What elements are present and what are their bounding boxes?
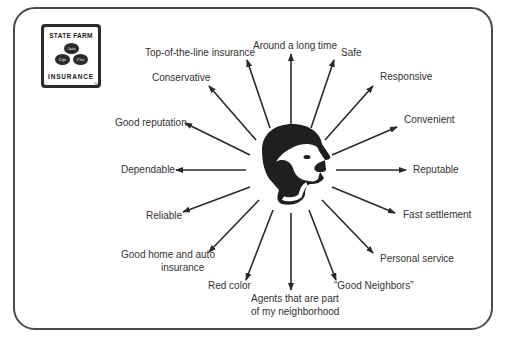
label-agents-neighborhood-line2: of my neighborhood: [251, 306, 339, 318]
label-reliable: Reliable: [146, 210, 182, 222]
label-responsive: Responsive: [380, 71, 432, 83]
label-dependable: Dependable: [121, 164, 175, 176]
arrow-convenient: [332, 127, 397, 155]
label-good-home-auto-line1: Good home and auto: [121, 249, 215, 261]
label-good-reputation: Good reputation: [115, 117, 187, 129]
arrow-red-color: [246, 210, 273, 280]
arrow-good-neighbors: [309, 210, 336, 280]
arrow-fast-settlement: [332, 187, 395, 213]
label-reputable: Reputable: [413, 164, 459, 176]
arrow-top-of-the-line: [247, 60, 270, 128]
label-fast-settlement: Fast settlement: [403, 209, 471, 221]
arrow-reliable: [183, 187, 250, 212]
label-personal-service: Personal service: [380, 253, 454, 265]
label-around-long-time: Around a long time: [253, 40, 337, 52]
label-agents-neighborhood-line1: Agents that are part: [251, 293, 339, 305]
label-good-home-auto-line2: insurance: [161, 262, 204, 274]
arrow-good-home-auto: [209, 200, 259, 252]
arrow-personal-service: [322, 200, 373, 253]
arrow-responsive: [325, 86, 373, 140]
label-top-of-the-line: Top-of-the-line insurance: [145, 47, 255, 59]
label-convenient: Convenient: [404, 114, 455, 126]
head-profile-icon: [262, 124, 330, 205]
label-good-neighbors: “Good Neighbors”: [334, 280, 413, 292]
label-conservative: Conservative: [152, 72, 210, 84]
label-red-color: Red color: [208, 280, 251, 292]
arrow-safe: [311, 60, 334, 128]
label-safe: Safe: [341, 47, 362, 59]
arrow-conservative: [209, 86, 256, 140]
arrow-good-reputation: [185, 123, 250, 155]
